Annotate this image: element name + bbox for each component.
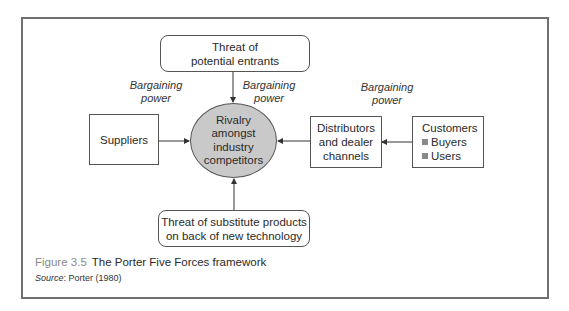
label-line: power: [116, 92, 196, 105]
label-line: Bargaining: [229, 79, 309, 92]
center-line-4: competitors: [204, 154, 263, 168]
label-line: power: [347, 94, 427, 107]
top-line-2: potential entrants: [191, 54, 279, 68]
figure-caption: Figure 3.5The Porter Five Forces framewo…: [35, 256, 266, 268]
label-line: Bargaining: [347, 81, 427, 94]
customers-item-users: Users: [422, 149, 461, 163]
top-line-1: Threat of: [191, 40, 279, 54]
distributors-line-2: and dealer: [317, 135, 375, 149]
customers-title: Customers: [422, 121, 478, 135]
center-line-2: amongst: [204, 127, 263, 141]
figure-title: The Porter Five Forces framework: [92, 256, 266, 268]
bargaining-power-label-customers: Bargaining power: [347, 81, 427, 107]
source-text: : Porter (1980): [64, 273, 122, 283]
bargaining-power-label-distributors: Bargaining power: [229, 79, 309, 105]
center-line-3: industry: [204, 141, 263, 155]
square-bullet-icon: [422, 153, 428, 159]
threat-of-new-entrants-box: Threat of potential entrants: [160, 35, 310, 72]
source-label: Source: [35, 273, 64, 283]
center-line-1: Rivalry: [204, 114, 263, 128]
label-line: Bargaining: [116, 79, 196, 92]
bottom-line-1: Threat of substitute products: [161, 215, 307, 229]
suppliers-box: Suppliers: [89, 114, 159, 165]
suppliers-label: Suppliers: [100, 133, 148, 147]
square-bullet-icon: [422, 139, 428, 145]
customers-box: Customers Buyers Users: [412, 116, 484, 168]
distributors-line-1: Distributors: [317, 121, 375, 135]
item-label: Buyers: [431, 135, 467, 149]
item-label: Users: [431, 149, 461, 163]
distributors-line-3: channels: [317, 149, 375, 163]
rivalry-ellipse: Rivalry amongst industry competitors: [190, 103, 277, 178]
customers-item-buyers: Buyers: [422, 135, 467, 149]
bottom-line-2: on back of new technology: [161, 229, 307, 243]
distributors-box: Distributors and dealer channels: [310, 116, 382, 168]
figure-source: Source: Porter (1980): [35, 273, 122, 283]
bargaining-power-label-suppliers: Bargaining power: [116, 79, 196, 105]
threat-of-substitutes-box: Threat of substitute products on back of…: [158, 210, 310, 247]
figure-number: Figure 3.5: [35, 256, 87, 268]
